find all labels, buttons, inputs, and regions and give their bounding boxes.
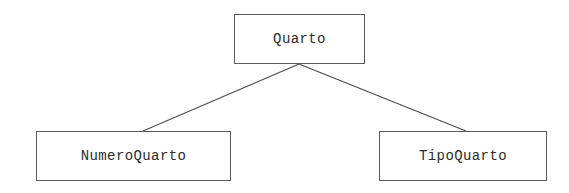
node-quarto-label: Quarto bbox=[273, 32, 326, 46]
node-numeroquarto[interactable]: NumeroQuarto bbox=[36, 131, 231, 181]
edge-root-to-tipoquarto bbox=[299, 64, 466, 131]
edge-root-to-numeroquarto bbox=[143, 64, 299, 131]
node-tipoquarto-label: TipoQuarto bbox=[419, 149, 507, 163]
node-numeroquarto-label: NumeroQuarto bbox=[81, 149, 187, 163]
diagram-canvas: Quarto NumeroQuarto TipoQuarto bbox=[0, 0, 569, 193]
node-tipoquarto[interactable]: TipoQuarto bbox=[379, 131, 547, 181]
node-quarto[interactable]: Quarto bbox=[234, 14, 365, 64]
